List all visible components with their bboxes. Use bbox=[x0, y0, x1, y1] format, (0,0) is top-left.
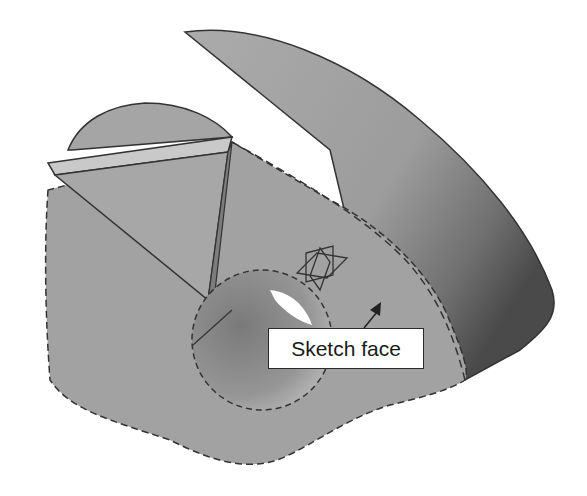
sketch-face-label: Sketch face bbox=[268, 328, 424, 369]
cad-part-illustration bbox=[0, 0, 587, 496]
